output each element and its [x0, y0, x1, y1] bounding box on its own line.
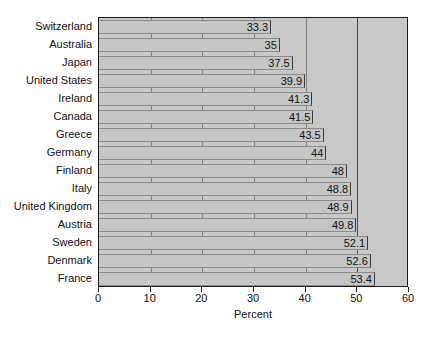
x-tick-label: 10: [144, 292, 156, 304]
bar-value-label: 41.3: [288, 91, 312, 107]
category-label: United States: [0, 71, 92, 89]
bar: [99, 20, 271, 34]
bar-value-label: 33.3: [247, 19, 271, 35]
bar-row: 49.8: [99, 216, 407, 234]
category-label: Canada: [0, 107, 92, 125]
bar: [99, 254, 371, 268]
bar-row: 52.1: [99, 234, 407, 252]
x-tick-label: 60: [402, 292, 414, 304]
bar-row: 52.6: [99, 252, 407, 270]
bar-row: 37.5: [99, 54, 407, 72]
x-axis-title: Percent: [98, 308, 408, 320]
bar-row: 39.9: [99, 72, 407, 90]
bar-row: 41.3: [99, 90, 407, 108]
category-label: Switzerland: [0, 17, 92, 35]
bar-chart: SwitzerlandAustraliaJapanUnited StatesIr…: [0, 0, 430, 341]
category-label: Austria: [0, 215, 92, 233]
category-label: Denmark: [0, 251, 92, 269]
plot-area: 33.33537.539.941.341.543.5444848.848.949…: [98, 17, 408, 287]
bar-value-label: 48.8: [327, 181, 351, 197]
bar-value-label: 48.9: [327, 199, 351, 215]
bar-value-label: 41.5: [289, 109, 313, 125]
category-label: Australia: [0, 35, 92, 53]
category-label: Sweden: [0, 233, 92, 251]
bar-value-label: 44: [311, 145, 326, 161]
category-label: United Kingdom: [0, 197, 92, 215]
x-tick-label: 50: [350, 292, 362, 304]
bar: [99, 182, 351, 196]
bar-value-label: 52.6: [346, 253, 370, 269]
bar: [99, 272, 375, 286]
bar-row: 33.3: [99, 18, 407, 36]
bar: [99, 200, 352, 214]
bar-row: 41.5: [99, 108, 407, 126]
bar-value-label: 48: [332, 163, 347, 179]
category-label: France: [0, 269, 92, 287]
category-label: Finland: [0, 161, 92, 179]
category-label: Germany: [0, 143, 92, 161]
bar-value-label: 39.9: [281, 73, 305, 89]
bar-value-label: 53.4: [350, 271, 374, 287]
bar-row: 44: [99, 144, 407, 162]
category-label: Japan: [0, 53, 92, 71]
x-tick-label: 0: [95, 292, 101, 304]
bar-row: 53.4: [99, 270, 407, 288]
x-tick-label: 40: [299, 292, 311, 304]
bar: [99, 128, 324, 142]
bar: [99, 236, 368, 250]
bar: [99, 74, 305, 88]
bar: [99, 218, 356, 232]
bar-value-label: 49.8: [332, 217, 356, 233]
bar: [99, 92, 312, 106]
x-axis-tick-labels: 0102030405060: [98, 292, 408, 308]
bar-value-label: 37.5: [268, 55, 292, 71]
category-axis-labels: SwitzerlandAustraliaJapanUnited StatesIr…: [0, 17, 92, 287]
bar: [99, 164, 347, 178]
bar: [99, 38, 280, 52]
bar-rows: 33.33537.539.941.341.543.5444848.848.949…: [99, 18, 407, 286]
category-label: Italy: [0, 179, 92, 197]
bar-value-label: 52.1: [344, 235, 368, 251]
bar-row: 43.5: [99, 126, 407, 144]
x-tick-label: 20: [195, 292, 207, 304]
category-label: Greece: [0, 125, 92, 143]
bar: [99, 56, 293, 70]
bar-row: 48: [99, 162, 407, 180]
category-label: Ireland: [0, 89, 92, 107]
bar-row: 48.9: [99, 198, 407, 216]
bar-row: 48.8: [99, 180, 407, 198]
bar: [99, 146, 326, 160]
bar-value-label: 43.5: [299, 127, 323, 143]
bar: [99, 110, 313, 124]
bar-row: 35: [99, 36, 407, 54]
x-tick-label: 30: [247, 292, 259, 304]
bar-value-label: 35: [265, 37, 280, 53]
